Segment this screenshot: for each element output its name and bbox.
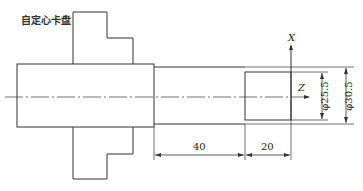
lathe-workpiece-diagram: 自定心卡盘 X Z φ25.5 φ30.5 40 20 [0,0,363,191]
small-diameter-label: φ25.5 [320,81,330,111]
length-20-label: 20 [261,142,274,152]
x-axis-label: X [288,33,295,43]
workpiece-small-section [245,72,291,120]
chuck-jaw-lower [73,127,133,179]
workpiece-middle-section [154,67,245,124]
large-diameter-label: φ30.5 [344,81,354,111]
chuck-label: 自定心卡盘 [21,16,71,26]
chuck-jaw-upper [73,12,133,64]
z-axis-label: Z [298,83,305,93]
length-40-label: 40 [193,142,206,152]
drawing-canvas [0,0,363,191]
z-axis-arrow-icon [304,95,310,99]
workpiece-large-section [17,64,154,127]
x-axis-arrow-icon [289,44,293,50]
